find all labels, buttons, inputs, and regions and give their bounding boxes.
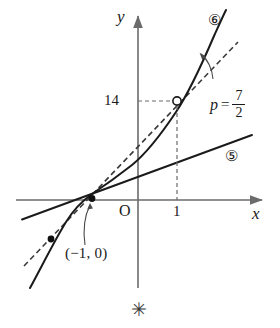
y-axis-label: y [117, 8, 125, 25]
point-label-leader [84, 205, 90, 245]
open-point-marker [173, 97, 181, 105]
point-label-minus-one-zero: (−1, 0) [65, 246, 107, 261]
curve-6-graph [30, 10, 226, 288]
secant-dashed-line [24, 42, 238, 266]
x-tick-label-1: 1 [173, 204, 181, 219]
origin-label: O [119, 203, 131, 219]
line-label-5: ⑤ [225, 149, 238, 164]
slope-fraction: 7 2 [232, 89, 245, 120]
filled-point-marker-minus1 [89, 195, 96, 202]
math-figure: y x O 14 1 ⑥ ⑤ (−1, 0) p = 7 2 ✳ [0, 0, 280, 328]
point-label-leader-arrowhead [87, 203, 93, 210]
x-axis-label: x [252, 205, 260, 222]
slope-annotation: p = 7 2 [210, 89, 245, 120]
slope-denominator: 2 [233, 105, 244, 120]
slope-numerator: 7 [233, 89, 244, 104]
filled-point-marker-lower-left [48, 236, 55, 243]
slope-equals-sign: = [221, 97, 229, 112]
plot-canvas [0, 0, 280, 328]
footnote-asterisk: ✳ [131, 298, 147, 321]
y-tick-label-14: 14 [104, 93, 119, 108]
slope-variable: p [210, 97, 218, 113]
curve-label-6: ⑥ [208, 13, 221, 28]
